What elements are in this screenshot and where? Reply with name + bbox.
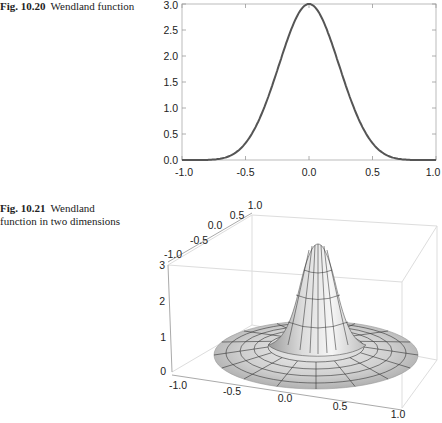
z-tick-label: 3 <box>159 259 165 271</box>
y-tick-label: 0.5 <box>163 128 178 140</box>
wendland-plot-svg: 0.0 0.5 1.0 1.5 2.0 2.5 3.0 -1.0 -0.5 0.… <box>0 0 442 423</box>
y-ticks <box>182 4 436 160</box>
line-chart: 0.0 0.5 1.0 1.5 2.0 2.5 3.0 -1.0 -0.5 0.… <box>163 0 440 178</box>
y3d-tick-label: -1.0 <box>164 248 182 260</box>
surface-peak <box>268 244 366 356</box>
y-tick-label: 1.5 <box>163 76 178 88</box>
x3d-tick-label: -1.0 <box>169 379 187 391</box>
z-axis <box>168 265 172 372</box>
x-tick-label: -0.5 <box>236 166 254 178</box>
y-tick-label: 1.0 <box>163 102 178 114</box>
x-tick-label: -1.0 <box>175 166 193 178</box>
x3d-tick-label: -0.5 <box>223 385 241 397</box>
x3d-tick-label: 1.0 <box>391 408 406 420</box>
wendland-curve <box>182 4 436 160</box>
x-tick-label: 1.0 <box>426 166 441 178</box>
y3d-tick-label: 0.0 <box>208 219 223 231</box>
z-tick-labels: 0 1 2 3 <box>159 259 166 377</box>
x3d-tick-label: 0.5 <box>333 400 348 412</box>
z-tick-label: 1 <box>160 331 166 343</box>
z-tick-label: 2 <box>159 295 165 307</box>
x-ticks <box>182 4 436 160</box>
y-tick-label: 0.0 <box>163 154 178 166</box>
x-tick-labels: -1.0 -0.5 0.0 0.5 1.0 <box>175 166 440 178</box>
y3d-tick-label: -0.5 <box>190 234 208 246</box>
y3d-tick-label: 1.0 <box>248 199 263 211</box>
y3d-tick-labels: -1.0 -0.5 0.0 0.5 1.0 <box>164 199 262 260</box>
y-tick-label: 2.0 <box>163 50 178 62</box>
y-tick-label: 2.5 <box>163 24 178 36</box>
surface-plot-3d: 0 1 2 3 -1.0 -0.5 0.0 0.5 1.0 -1.0 -0.5 … <box>159 199 437 420</box>
x3d-tick-label: 0.0 <box>278 392 293 404</box>
y3d-tick-label: 0.5 <box>230 209 245 221</box>
x-tick-label: 0.0 <box>302 166 317 178</box>
y-tick-labels: 0.0 0.5 1.0 1.5 2.0 2.5 3.0 <box>163 0 178 166</box>
plot-frame <box>182 4 436 160</box>
z-tick-label: 0 <box>160 365 166 377</box>
x-tick-label: 0.5 <box>365 166 380 178</box>
y-tick-label: 3.0 <box>163 0 178 11</box>
